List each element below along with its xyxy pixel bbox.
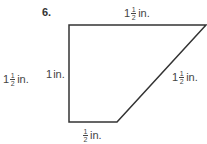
whole: 1 [46,68,52,80]
numerator: 1 [11,72,15,79]
unit: in. [53,68,65,80]
label-top-side: 112in. [124,6,150,21]
label-diagonal-side: 112in. [172,70,198,85]
denominator: 2 [132,14,136,21]
label-left-inner: 1in. [46,68,65,80]
whole: 1 [124,7,130,19]
fraction: 12 [179,70,184,85]
numerator: 1 [180,70,184,77]
fraction: 12 [131,6,136,21]
unit: in. [90,129,102,141]
fraction: 12 [10,72,15,87]
fraction: 12 [83,128,88,143]
problem-number: 6. [42,6,51,18]
label-bottom-side: 12in. [82,128,102,143]
denominator: 2 [180,78,184,85]
whole: 1 [3,73,9,85]
label-left-outer: 112in. [3,72,29,87]
unit: in. [186,71,198,83]
whole: 1 [172,71,178,83]
numerator: 1 [84,128,88,135]
numerator: 1 [132,6,136,13]
unit: in. [17,73,29,85]
denominator: 2 [11,80,15,87]
unit: in. [138,7,150,19]
denominator: 2 [84,136,88,143]
